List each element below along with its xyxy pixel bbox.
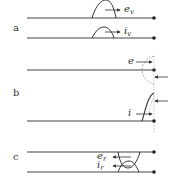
line-end-dot — [152, 16, 156, 20]
line-end-dot — [152, 170, 156, 174]
current-pulse-incident — [92, 27, 114, 38]
transmission-line-wave-reflection-diagram: a b c ev iv e i er ir — [0, 0, 176, 184]
wave-label-i: i — [128, 108, 131, 120]
panel-b-graphics — [27, 56, 168, 132]
wave-label-ev: ev — [124, 4, 134, 16]
wave-subscript: v — [127, 30, 131, 38]
wave-label-iv: iv — [124, 26, 131, 38]
wave-symbol: e — [128, 55, 134, 66]
diagram-graphics — [0, 0, 176, 184]
current-pulse-at-end — [142, 93, 154, 121]
panel-label-c: c — [13, 152, 19, 162]
wave-symbol: i — [128, 107, 131, 118]
line-end-dot — [152, 119, 156, 123]
panel-label-a: a — [13, 23, 19, 33]
panel-a-graphics — [27, 0, 156, 40]
panel-c-graphics — [27, 150, 156, 174]
wave-label-ir: ir — [97, 160, 104, 172]
wave-subscript: v — [130, 8, 134, 16]
panel-label-b: b — [13, 88, 19, 98]
voltage-pulse-incident — [92, 0, 116, 18]
line-end-dot — [152, 150, 156, 154]
line-end-dot — [152, 36, 156, 40]
wave-subscript: r — [100, 164, 103, 172]
wave-label-e: e — [128, 56, 134, 68]
